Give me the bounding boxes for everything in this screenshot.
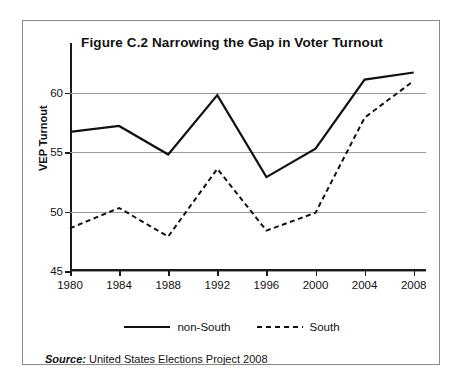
x-tick-mark-2008: [414, 271, 416, 276]
legend-swatch-solid: [124, 323, 170, 331]
x-tick-label-2000: 2000: [303, 279, 329, 291]
x-tick-label-1996: 1996: [254, 279, 280, 291]
plot-area: 45505560 1980198419881992199620002004200…: [70, 63, 426, 271]
y-tick-label-60: 60: [50, 87, 63, 99]
x-tick-mark-1996: [266, 271, 268, 276]
source-text: United States Elections Project 2008: [86, 353, 268, 365]
legend-item-south: South: [257, 321, 340, 333]
series-lines: [70, 63, 426, 271]
series-line-non-south: [70, 73, 414, 178]
x-tick-mark-2004: [365, 271, 367, 276]
x-tick-label-1992: 1992: [205, 279, 231, 291]
x-tick-label-1980: 1980: [57, 279, 83, 291]
x-tick-mark-1992: [217, 271, 219, 276]
x-tick-mark-1988: [168, 271, 170, 276]
series-line-south: [70, 81, 414, 237]
y-tick-label-50: 50: [50, 206, 63, 218]
legend-item-non-south: non-South: [124, 321, 230, 333]
y-tick-label-55: 55: [50, 146, 63, 158]
figure-title: Figure C.2 Narrowing the Gap in Voter Tu…: [23, 35, 441, 50]
figure-frame: Figure C.2 Narrowing the Gap in Voter Tu…: [22, 20, 440, 365]
legend-label-south: South: [310, 321, 340, 333]
x-tick-label-2008: 2008: [401, 279, 427, 291]
x-tick-mark-1980: [70, 271, 72, 276]
y-axis-title: VEP Turnout: [37, 105, 49, 171]
x-tick-label-2004: 2004: [352, 279, 378, 291]
gridline-45: [70, 271, 426, 272]
source-label: Source:: [45, 353, 86, 365]
chart-legend: non-South South: [23, 321, 441, 333]
y-tick-label-45: 45: [50, 265, 63, 277]
x-tick-mark-2000: [316, 271, 318, 276]
x-tick-label-1984: 1984: [106, 279, 132, 291]
x-tick-mark-1984: [119, 271, 121, 276]
source-note: Source: United States Elections Project …: [45, 353, 268, 365]
x-tick-label-1988: 1988: [155, 279, 181, 291]
legend-label-non-south: non-South: [177, 321, 230, 333]
legend-swatch-dashed: [257, 323, 303, 331]
